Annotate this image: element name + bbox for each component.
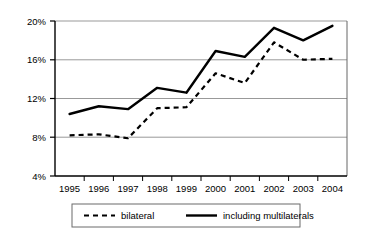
x-label-2003: 2003 [293,183,314,194]
y-label-12: 12% [27,93,47,104]
x-label-1999: 1999 [176,183,197,194]
x-label-1995: 1995 [59,183,80,194]
line-chart: 20% 16% 12% 8% 4% 1995 1996 1997 1998 19… [0,0,367,236]
legend-label-including-multilaterals: including multilaterals [223,210,314,221]
x-label-1998: 1998 [147,183,168,194]
chart-container: 20% 16% 12% 8% 4% 1995 1996 1997 1998 19… [0,0,367,236]
x-label-2000: 2000 [205,183,226,194]
x-label-1996: 1996 [88,183,109,194]
x-label-2001: 2001 [234,183,255,194]
x-label-1997: 1997 [117,183,138,194]
y-label-4: 4% [32,171,46,182]
x-label-2002: 2002 [263,183,284,194]
y-label-16: 16% [27,54,47,65]
x-label-2004: 2004 [322,183,343,194]
chart-legend: bilateral including multilaterals [72,204,314,227]
y-label-20: 20% [27,16,47,27]
legend-label-bilateral: bilateral [121,210,154,221]
y-label-8: 8% [32,132,46,143]
